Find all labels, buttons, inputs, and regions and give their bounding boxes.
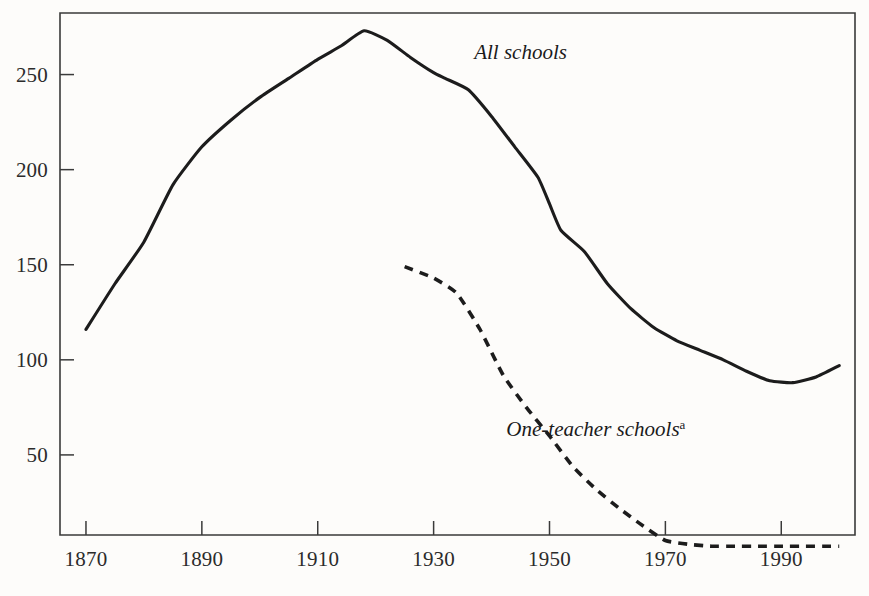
plot-frame [60, 13, 855, 535]
series-annotation-label: All schools [472, 40, 567, 64]
y-tick-label: 200 [16, 158, 48, 182]
y-axis-ticks: 50100150200250 [16, 63, 74, 467]
line-chart: 50100150200250 1870189019101930195019701… [0, 0, 869, 596]
y-tick-label: 250 [16, 63, 48, 87]
footnote-marker: a [680, 417, 686, 432]
series-annotation-label: One-teacher schoolsa [506, 417, 685, 441]
series-annotations: All schoolsOne-teacher schoolsa [472, 40, 685, 441]
y-tick-label: 50 [27, 443, 48, 467]
x-tick-label: 1870 [65, 547, 108, 571]
x-tick-label: 1930 [412, 547, 455, 571]
x-tick-label: 1950 [528, 547, 571, 571]
x-tick-label: 1970 [644, 547, 687, 571]
series-group [86, 31, 839, 546]
y-tick-label: 100 [16, 348, 48, 372]
series-line-all-schools [86, 31, 839, 383]
series-line-one-teacher-schools [405, 267, 840, 547]
y-tick-label: 150 [16, 253, 48, 277]
chart-figure: 50100150200250 1870189019101930195019701… [0, 0, 869, 596]
x-tick-label: 1910 [296, 547, 339, 571]
x-tick-label: 1990 [760, 547, 803, 571]
x-tick-label: 1890 [180, 547, 223, 571]
x-axis-ticks: 1870189019101930195019701990 [65, 521, 803, 571]
